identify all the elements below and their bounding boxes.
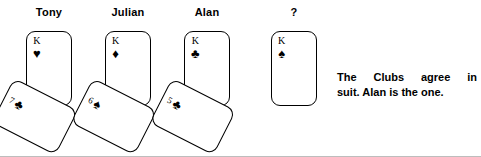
card-corner-pip: K ♣ [191,36,200,60]
card-corner-pip: K ♥ [33,36,41,60]
upright-card-unknown[interactable]: K ♠ [271,31,317,106]
card-corner-pip: K ♦ [112,36,119,60]
column-label-julian: Julian [105,6,151,18]
card-puzzle-figure: Tony K ♥ 7 ♣ Julian K ♦ 6 ♠ Alan K ♣ [0,0,481,157]
card-rank: K [278,36,285,46]
card-corner-pip: K ♠ [278,36,285,60]
spade-icon: ♠ [278,47,285,60]
caption-line-1: The Clubs agree in [337,70,477,85]
club-icon: ♣ [191,47,200,60]
card-rank: K [112,36,119,46]
column-label-alan: Alan [184,6,230,18]
card-corner-pip: 7 ♣ [7,94,26,112]
column-label-tony: Tony [26,6,72,18]
column-label-unknown: ? [271,6,317,18]
card-corner-pip: 6 ♠ [86,94,104,112]
card-corner-pip: 5 ♣ [165,94,184,112]
caption-line-2: suit. Alan is the one. [337,85,477,100]
card-rank: K [33,36,40,46]
diamond-icon: ♦ [112,47,119,60]
card-rank: K [192,36,199,46]
caption-text: The Clubs agree in suit. Alan is the one… [337,70,477,100]
heart-icon: ♥ [33,47,41,60]
